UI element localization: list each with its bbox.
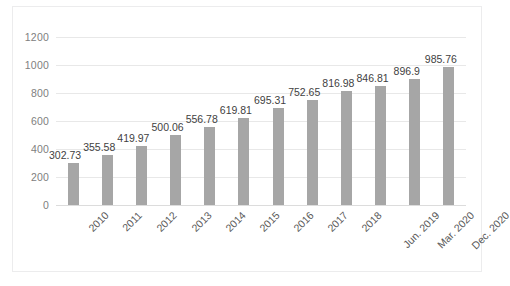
y-axis-tick-label: 200	[5, 171, 49, 183]
y-axis-tick-label: 0	[5, 199, 49, 211]
bar-value-label: 695.31	[254, 94, 286, 106]
gridline	[56, 37, 466, 38]
y-axis-tick-label: 800	[5, 87, 49, 99]
bar[interactable]	[68, 163, 79, 205]
y-axis-tick-label: 1200	[5, 31, 49, 43]
bar-value-label: 896.9	[394, 65, 420, 77]
bar-value-label: 985.76	[425, 53, 457, 65]
bar[interactable]	[307, 100, 318, 205]
bar-value-label: 619.81	[220, 104, 252, 116]
gridline	[56, 177, 466, 178]
gridline	[56, 149, 466, 150]
bar-value-label: 556.78	[186, 113, 218, 125]
y-axis-tick-label: 1000	[5, 59, 49, 71]
bar[interactable]	[375, 86, 386, 205]
y-axis-tick-label: 400	[5, 143, 49, 155]
gridline	[56, 205, 466, 206]
bar[interactable]	[238, 118, 249, 205]
bar[interactable]	[273, 108, 284, 205]
bar-value-label: 355.58	[83, 141, 115, 153]
plot-area: 302.73355.58419.97500.06556.78619.81695.…	[56, 37, 466, 205]
bar-value-label: 500.06	[152, 121, 184, 133]
bar-value-label: 846.81	[357, 72, 389, 84]
bar[interactable]	[341, 91, 352, 205]
bar-value-label: 419.97	[117, 132, 149, 144]
y-axis-tick-label: 600	[5, 115, 49, 127]
bar-value-label: 816.98	[322, 77, 354, 89]
bar-value-label: 302.73	[49, 149, 81, 161]
bar[interactable]	[443, 67, 454, 205]
bar[interactable]	[204, 127, 215, 205]
bar-chart: 020040060080010001200 302.73355.58419.97…	[0, 0, 510, 286]
bar-value-label: 752.65	[288, 86, 320, 98]
bar[interactable]	[409, 79, 420, 205]
gridline	[56, 121, 466, 122]
bar[interactable]	[102, 155, 113, 205]
bar[interactable]	[170, 135, 181, 205]
bar[interactable]	[136, 146, 147, 205]
